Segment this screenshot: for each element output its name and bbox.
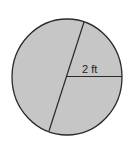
circle-diagram: 2 ft bbox=[0, 0, 130, 141]
radius-label: 2 ft bbox=[82, 63, 97, 75]
